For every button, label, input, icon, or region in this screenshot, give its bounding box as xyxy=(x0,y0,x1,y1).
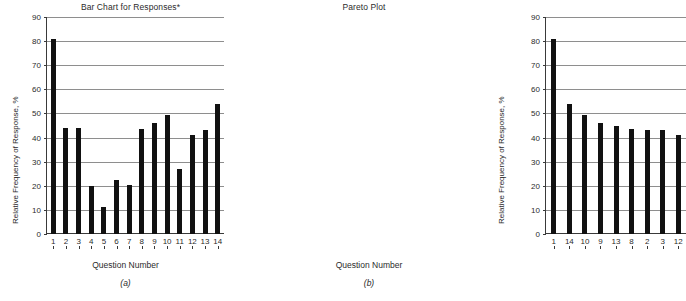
x-axis-tick-label: 5 xyxy=(98,234,111,246)
bar xyxy=(629,129,634,234)
chart-title-bar-chart: Bar Chart for Responses* xyxy=(0,2,243,12)
bar-cell xyxy=(72,17,85,234)
bar xyxy=(190,135,195,234)
bar xyxy=(645,130,650,234)
x-axis-tick-mark xyxy=(66,246,67,249)
bar xyxy=(63,128,68,234)
x-axis-tick-mark xyxy=(218,246,219,249)
y-axis-label-b: Relative Frequency of Response, % xyxy=(497,96,506,224)
x-axis-label-a: Question Number xyxy=(4,260,247,270)
x-axis-tick-label: 6 xyxy=(110,234,123,246)
bar-cell xyxy=(639,17,655,234)
bar-series-a xyxy=(47,17,224,234)
bar-cell xyxy=(110,17,123,234)
bar xyxy=(127,185,132,234)
x-axis-tick-label: 1 xyxy=(47,234,60,246)
bar xyxy=(139,129,144,234)
x-axis-tick-mark xyxy=(154,246,155,249)
bar-cell xyxy=(546,17,562,234)
bar-cell xyxy=(123,17,136,234)
bar-cell xyxy=(577,17,593,234)
bar-cell xyxy=(148,17,161,234)
x-axis-tick-mark xyxy=(616,246,617,249)
x-axis-tick-label: 11 xyxy=(173,234,186,246)
x-axis-tick-label: 12 xyxy=(186,234,199,246)
x-axis-tick-label: 14 xyxy=(211,234,224,246)
x-axis-label-b: Question Number xyxy=(259,260,479,270)
bar-cell xyxy=(60,17,73,234)
x-axis-tick-label: 8 xyxy=(135,234,148,246)
x-axis-tick-mark xyxy=(79,246,80,249)
x-axis-tick-mark xyxy=(129,246,130,249)
x-axis-tick-mark xyxy=(554,246,555,249)
bar-cell xyxy=(593,17,609,234)
x-axis-tick-mark xyxy=(167,246,168,249)
x-axis-tick-label: 1 xyxy=(546,234,562,246)
plot-area-b: 0102030405060708090 1141091382312 xyxy=(545,17,686,234)
x-axis-tick-label: 2 xyxy=(639,234,655,246)
x-axis-tick-mark xyxy=(117,246,118,249)
x-axis-tick-label: 13 xyxy=(608,234,624,246)
bar xyxy=(551,39,556,234)
x-axis-tick-mark xyxy=(205,246,206,249)
bar xyxy=(614,126,619,235)
bar-cell xyxy=(199,17,212,234)
bar-cell xyxy=(173,17,186,234)
bar xyxy=(51,39,56,234)
x-axis-tick-label: 13 xyxy=(199,234,212,246)
bar-cell xyxy=(562,17,578,234)
x-axis-tick-mark xyxy=(142,246,143,249)
x-axis-tick-mark xyxy=(663,246,664,249)
x-axis-tick-label: 9 xyxy=(148,234,161,246)
bar xyxy=(165,115,170,234)
bar xyxy=(101,207,106,234)
bar-cell xyxy=(85,17,98,234)
bar-series-b xyxy=(546,17,686,234)
x-axis-tick-mark xyxy=(585,246,586,249)
x-axis-tick-label: 9 xyxy=(593,234,609,246)
x-axis-tick-label: 8 xyxy=(624,234,640,246)
panel-letter-b: (b) xyxy=(259,278,479,288)
x-axis-tick-label: 4 xyxy=(85,234,98,246)
plot-area-a: 0102030405060708090 1234567891011121314 xyxy=(46,17,224,234)
x-axis-tick-mark xyxy=(180,246,181,249)
x-axis-tick-label: 12 xyxy=(671,234,686,246)
x-axis-tick-label: 7 xyxy=(123,234,136,246)
x-axis-tick-mark xyxy=(192,246,193,249)
bar xyxy=(203,130,208,234)
panel-a-bar-chart: Bar Chart for Responses* Relative Freque… xyxy=(0,0,243,301)
x-axis-tick-mark xyxy=(104,246,105,249)
x-axis-ticks-a: 1234567891011121314 xyxy=(47,234,224,246)
bar-cell xyxy=(624,17,640,234)
x-axis-tick-mark xyxy=(678,246,679,249)
bar-cell xyxy=(161,17,174,234)
x-axis-tick-mark xyxy=(647,246,648,249)
bar-cell xyxy=(211,17,224,234)
bar-cell xyxy=(135,17,148,234)
bar xyxy=(582,115,587,234)
bar xyxy=(76,128,81,234)
bar xyxy=(152,123,157,234)
x-axis-tick-label: 10 xyxy=(577,234,593,246)
x-axis-tick-mark xyxy=(569,246,570,249)
bar-cell xyxy=(47,17,60,234)
x-axis-tick-mark xyxy=(91,246,92,249)
x-axis-tick-label: 10 xyxy=(161,234,174,246)
bar xyxy=(567,104,572,234)
bar-cell xyxy=(671,17,686,234)
x-axis-ticks-b: 1141091382312 xyxy=(546,234,686,246)
bar xyxy=(89,186,94,234)
x-axis-tick-mark xyxy=(632,246,633,249)
bar xyxy=(598,123,603,234)
bar-cell xyxy=(608,17,624,234)
y-axis-label-a: Relative Frequency of Response, % xyxy=(11,96,20,224)
panel-letter-a: (a) xyxy=(4,278,247,288)
x-axis-tick-mark xyxy=(600,246,601,249)
x-axis-tick-label: 14 xyxy=(562,234,578,246)
bar-cell xyxy=(186,17,199,234)
bar xyxy=(114,180,119,234)
bar xyxy=(660,130,665,234)
bar-cell xyxy=(98,17,111,234)
x-axis-tick-mark xyxy=(53,246,54,249)
